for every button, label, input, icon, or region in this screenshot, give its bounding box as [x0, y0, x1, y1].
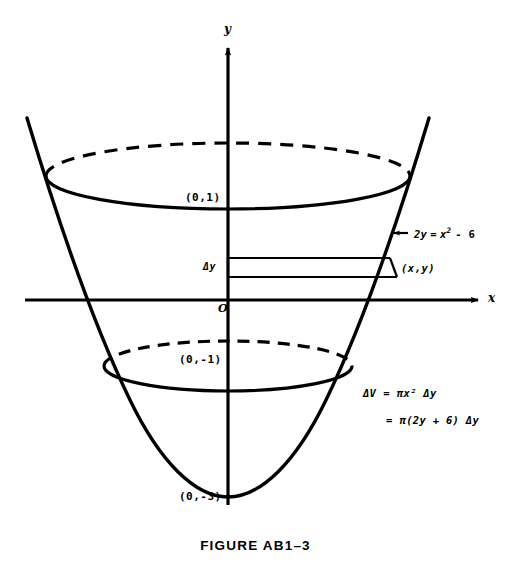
volume-rhs-2: π(2y + 6) Δy	[400, 414, 479, 426]
curve-eq-rhs-tail: - 6	[455, 228, 475, 240]
curve-equation-label: 2y=x2- 6	[414, 226, 475, 240]
curve-eq-lhs: 2y	[414, 228, 427, 240]
curve-eq-rhs-exponent: 2	[447, 226, 452, 235]
volume-formula-line2: =π(2y + 6) Δy	[386, 414, 479, 426]
slab-point-label: (x,y)	[401, 262, 435, 274]
y-axis-label: y	[224, 22, 231, 36]
parabola-left-arm	[27, 118, 228, 497]
slab-right-edge	[390, 258, 397, 277]
slab-thickness-label: Δy	[203, 261, 216, 272]
point-label-top: (0,1)	[185, 191, 221, 204]
volume-eq-sign-2: =	[386, 414, 393, 426]
volume-rhs-1: πx² Δy	[397, 387, 437, 399]
parabola-right-arm	[228, 118, 429, 497]
figure-drawing	[0, 0, 511, 569]
volume-lhs: ΔV	[363, 387, 376, 399]
figure-caption: FIGURE AB1–3	[0, 538, 511, 553]
figure-container: y x O (0,1) (0,-1) (0,-3) Δy (x,y) 2y=x2…	[0, 0, 511, 569]
volume-formula-line1: ΔV=πx² Δy	[363, 387, 437, 399]
origin-label: O	[218, 302, 228, 315]
volume-eq-sign-1: =	[383, 387, 390, 399]
curve-eq-rhs-base: x	[440, 228, 447, 240]
x-axis-label: x	[488, 291, 495, 305]
disc-slab-element	[228, 258, 397, 277]
curve-eq-sign: =	[430, 228, 437, 240]
point-label-vertex: (0,-3)	[179, 490, 222, 503]
point-label-mid: (0,-1)	[179, 353, 222, 366]
